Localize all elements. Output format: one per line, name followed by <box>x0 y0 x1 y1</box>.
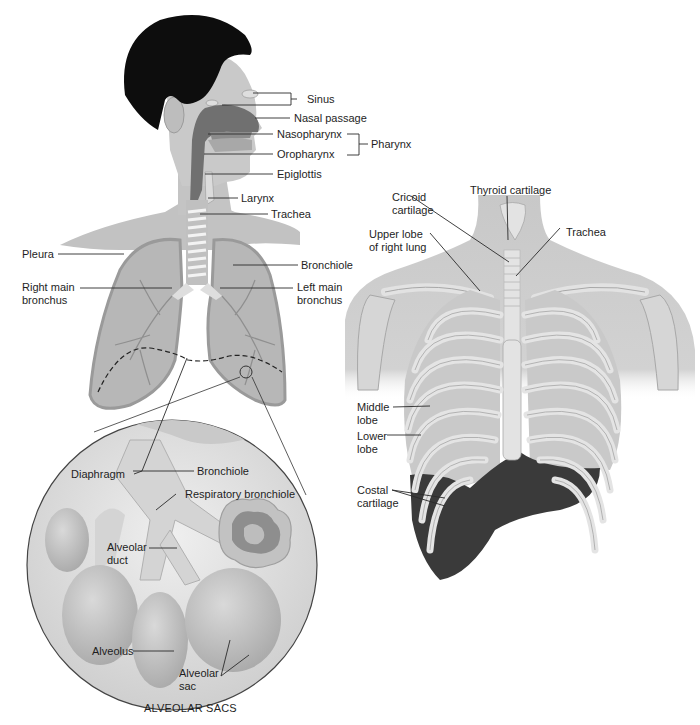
label-trachea-left: Trachea <box>271 208 311 221</box>
label-alveolar-duct: Alveolar duct <box>107 541 147 566</box>
label-nasal-passage: Nasal passage <box>294 112 367 125</box>
label-costal-line2: cartilage <box>357 497 399 510</box>
label-left-main-bronchus-line2: bronchus <box>297 294 342 307</box>
label-diaphragm: Diaphragm <box>71 468 125 481</box>
label-thyroid-cartilage: Thyroid cartilage <box>470 184 551 197</box>
label-cricoid-line1: Cricoid <box>392 191 434 204</box>
label-alveolar-sac-line2: sac <box>179 680 219 693</box>
label-larynx: Larynx <box>241 192 274 205</box>
label-epiglottis: Epiglottis <box>277 168 322 181</box>
label-trachea-right: Trachea <box>566 226 606 239</box>
label-left-main-bronchus-line1: Left main <box>297 281 342 294</box>
label-cricoid-cartilage: Cricoid cartilage <box>392 191 434 216</box>
label-alveolar-duct-line1: Alveolar <box>107 541 147 554</box>
label-bronchiole: Bronchiole <box>301 259 353 272</box>
label-alveolus: Alveolus <box>92 645 134 658</box>
label-nasopharynx: Nasopharynx <box>277 128 342 141</box>
label-cricoid-line2: cartilage <box>392 204 434 217</box>
label-inset-bronchiole: Bronchiole <box>197 465 249 478</box>
label-costal-line1: Costal <box>357 484 399 497</box>
label-pleura: Pleura <box>22 248 54 261</box>
label-alveolar-sac-line1: Alveolar <box>179 667 219 680</box>
label-alveolar-duct-line2: duct <box>107 554 147 567</box>
label-left-main-bronchus: Left main bronchus <box>297 281 342 306</box>
label-upper-lobe-line1: Upper lobe <box>369 228 426 241</box>
respiratory-system-illustration <box>0 0 700 725</box>
inset-caption: ALVEOLAR SACS <box>144 702 237 714</box>
label-middle-lobe-line2: lobe <box>357 414 389 427</box>
label-middle-lobe-line1: Middle <box>357 401 389 414</box>
label-sinus: Sinus <box>307 93 335 106</box>
label-right-main-bronchus-line2: bronchus <box>22 294 75 307</box>
label-lower-lobe-line1: Lower <box>357 430 387 443</box>
label-lower-lobe: Lower lobe <box>357 430 387 455</box>
label-upper-lobe-line2: of right lung <box>369 241 426 254</box>
alveolar-inset <box>27 377 317 710</box>
label-right-main-bronchus-line1: Right main <box>22 281 75 294</box>
label-alveolar-sac: Alveolar sac <box>179 667 219 692</box>
label-respiratory-bronchiole: Respiratory bronchiole <box>185 488 295 501</box>
label-oropharynx: Oropharynx <box>277 148 334 161</box>
label-lower-lobe-line2: lobe <box>357 443 387 456</box>
label-middle-lobe: Middle lobe <box>357 401 389 426</box>
label-upper-lobe: Upper lobe of right lung <box>369 228 426 253</box>
label-pharynx: Pharynx <box>371 138 411 151</box>
label-costal-cartilage: Costal cartilage <box>357 484 399 509</box>
label-right-main-bronchus: Right main bronchus <box>22 281 75 306</box>
